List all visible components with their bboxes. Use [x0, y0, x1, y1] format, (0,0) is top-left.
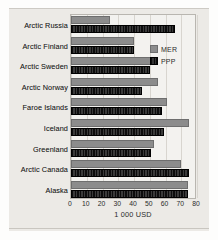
- bar-ppp: [71, 128, 164, 136]
- bar-mer: [71, 160, 181, 168]
- bar-mer: [71, 98, 167, 106]
- bar-row: Arctic Russia: [71, 15, 195, 36]
- category-label: Greenland: [33, 144, 68, 153]
- legend-swatch-mer: [150, 45, 158, 53]
- bar-ppp: [71, 66, 150, 74]
- category-label: Arctic Russia: [24, 21, 68, 30]
- bar-row: Arctic Norway: [71, 77, 195, 98]
- bar-mer: [71, 119, 189, 127]
- x-tick-label: 40: [129, 200, 137, 207]
- chart-legend: MERPPP: [150, 44, 190, 68]
- category-label: Faroe Islands: [22, 103, 68, 112]
- x-tick-label: 50: [145, 200, 153, 207]
- bar-ppp: [71, 169, 189, 177]
- bar-ppp: [71, 190, 188, 198]
- legend-item-mer: MER: [150, 44, 190, 54]
- legend-swatch-ppp: [150, 57, 158, 65]
- bar-ppp: [71, 87, 142, 95]
- bar-row: Alaska: [71, 179, 195, 200]
- x-axis-title: 1 000 USD: [70, 210, 196, 219]
- bar-mer: [71, 16, 110, 24]
- bar-ppp: [71, 46, 134, 54]
- bar-mer: [71, 181, 188, 189]
- category-label: Arctic Sweden: [20, 62, 68, 71]
- figure-bottom-rule: [9, 228, 209, 229]
- legend-label: PPP: [161, 58, 176, 65]
- category-label: Arctic Norway: [22, 82, 68, 91]
- category-label: Arctic Canada: [21, 165, 68, 174]
- bar-mer: [71, 140, 154, 148]
- plot-area: Arctic RussiaArctic FinlandArctic Sweden…: [70, 14, 196, 199]
- bar-mer: [71, 37, 134, 45]
- x-tick-label: 30: [113, 200, 121, 207]
- bar-ppp: [71, 25, 175, 33]
- bar-row: Faroe Islands: [71, 97, 195, 118]
- x-tick-label: 70: [176, 200, 184, 207]
- x-tick-label: 0: [68, 200, 72, 207]
- x-tick-label: 20: [98, 200, 106, 207]
- category-label: Iceland: [44, 124, 68, 133]
- bar-mer: [71, 57, 151, 65]
- bar-mer: [71, 78, 158, 86]
- bar-row: Greenland: [71, 138, 195, 159]
- legend-label: MER: [161, 46, 177, 53]
- bar-rows: Arctic RussiaArctic FinlandArctic Sweden…: [71, 15, 195, 198]
- x-tick-label: 10: [82, 200, 90, 207]
- bar-ppp: [71, 107, 162, 115]
- x-tick-label: 60: [161, 200, 169, 207]
- bar-ppp: [71, 149, 151, 157]
- legend-item-ppp: PPP: [150, 56, 190, 66]
- category-label: Alaska: [45, 185, 68, 194]
- category-label: Arctic Finland: [22, 41, 68, 50]
- bar-row: Arctic Canada: [71, 159, 195, 180]
- x-tick-label: 80: [192, 200, 200, 207]
- bar-row: Iceland: [71, 118, 195, 139]
- figure-root: Arctic RussiaArctic FinlandArctic Sweden…: [0, 0, 218, 240]
